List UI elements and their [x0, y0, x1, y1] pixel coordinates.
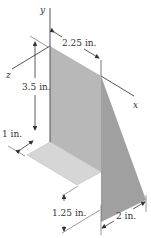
y-axis-label: y	[39, 5, 46, 15]
dim-height-label: 3.5 in.	[22, 82, 51, 92]
x-axis-label: x	[133, 100, 138, 110]
dim-base-width	[102, 221, 114, 228]
dim-top-width-label: 2.25 in.	[62, 38, 97, 48]
diagram-canvas: y x z 2.25 in. 3.5 in. 1 in. 1.25 in. 2 …	[0, 0, 151, 238]
dim-floor-depth	[20, 141, 33, 150]
dim-floor-offset-label: 1.25 in.	[52, 208, 87, 218]
z-axis-label: z	[5, 70, 11, 80]
dim-top-width	[54, 32, 62, 37]
z-axis	[12, 46, 50, 69]
dim-floor-depth-label: 1 in.	[2, 129, 22, 139]
triangle-plate	[101, 76, 146, 222]
dim-base-width-label: 2 in.	[116, 211, 136, 221]
